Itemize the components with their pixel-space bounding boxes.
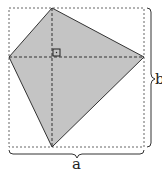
height-brace <box>147 8 155 147</box>
diagram-canvas: b a <box>0 0 162 171</box>
height-label: b <box>155 70 162 88</box>
kite-area-diagram: b a <box>0 0 162 171</box>
kite-shape <box>9 8 144 147</box>
width-label: a <box>72 155 81 171</box>
